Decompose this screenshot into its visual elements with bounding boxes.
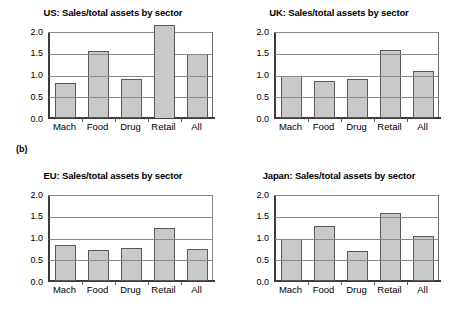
- x-tick-label: All: [180, 284, 213, 296]
- x-tick-label: Drug: [114, 284, 147, 296]
- panel-eu: EU: Sales/total assets by sector 0.00.51…: [0, 163, 226, 328]
- y-tick-label: 1.0: [238, 71, 269, 80]
- panel-us: US: Sales/total assets by sector 0.00.51…: [0, 0, 226, 165]
- x-tick-label: Retail: [147, 121, 180, 133]
- panel-uk: UK: Sales/total assets by sector 0.00.51…: [226, 0, 452, 165]
- x-tick-label: Food: [81, 121, 114, 133]
- x-tick-label: Mach: [48, 121, 81, 133]
- y-tick-label: 0.0: [12, 115, 43, 124]
- x-tick-label: Mach: [274, 121, 307, 133]
- x-tick-label: Retail: [373, 121, 406, 133]
- gridline: [275, 32, 438, 33]
- gridline: [275, 97, 438, 98]
- x-axis-labels-us: MachFoodDrugRetailAll: [48, 121, 213, 135]
- gridline: [275, 195, 438, 196]
- y-tick-label: 2.0: [12, 191, 43, 200]
- gridline: [49, 195, 212, 196]
- x-tick-label: Retail: [373, 284, 406, 296]
- y-tick-label: 0.5: [238, 93, 269, 102]
- x-tick-label: Drug: [340, 284, 373, 296]
- gridline: [275, 54, 438, 55]
- y-tick-label: 0.5: [12, 256, 43, 265]
- y-tick-label: 1.5: [12, 212, 43, 221]
- x-tick-label: Food: [81, 284, 114, 296]
- plot-area-eu: [48, 195, 213, 282]
- figure-grid: US: Sales/total assets by sector 0.00.51…: [0, 0, 452, 330]
- y-tick-label: 1.5: [238, 212, 269, 221]
- x-tick-label: All: [406, 121, 439, 133]
- x-tick-label: Mach: [48, 284, 81, 296]
- gridline: [49, 32, 212, 33]
- gridline: [49, 97, 212, 98]
- y-tick-label: 0.5: [12, 93, 43, 102]
- plot-area-japan: [274, 195, 439, 282]
- x-tick-label: Food: [307, 284, 340, 296]
- x-tick-label: All: [180, 121, 213, 133]
- y-tick-label: 1.0: [12, 234, 43, 243]
- x-axis-labels-uk: MachFoodDrugRetailAll: [274, 121, 439, 135]
- gridline: [275, 76, 438, 77]
- plot-area-us: [48, 32, 213, 119]
- gridline: [49, 54, 212, 55]
- bar: [154, 25, 176, 118]
- plot-area-uk: [274, 32, 439, 119]
- y-tick-label: 0.0: [12, 278, 43, 287]
- x-tick-label: Drug: [340, 121, 373, 133]
- gridline: [275, 239, 438, 240]
- x-tick-label: Food: [307, 121, 340, 133]
- y-tick-label: 1.0: [238, 234, 269, 243]
- x-tick-label: All: [406, 284, 439, 296]
- gridline: [49, 217, 212, 218]
- gridline: [275, 260, 438, 261]
- y-tick-label: 2.0: [238, 191, 269, 200]
- y-tick-label: 1.0: [12, 71, 43, 80]
- y-tick-label: 0.5: [238, 256, 269, 265]
- x-tick-label: Drug: [114, 121, 147, 133]
- y-tick-label: 0.0: [238, 115, 269, 124]
- x-axis-labels-eu: MachFoodDrugRetailAll: [48, 284, 213, 298]
- y-tick-label: 0.0: [238, 278, 269, 287]
- gridline: [275, 217, 438, 218]
- y-tick-label: 2.0: [238, 28, 269, 37]
- x-tick-label: Mach: [274, 284, 307, 296]
- y-tick-label: 1.5: [12, 49, 43, 58]
- panel-japan: Japan: Sales/total assets by sector 0.00…: [226, 163, 452, 328]
- y-tick-label: 1.5: [238, 49, 269, 58]
- gridline: [49, 260, 212, 261]
- x-axis-labels-japan: MachFoodDrugRetailAll: [274, 284, 439, 298]
- x-tick-label: Retail: [147, 284, 180, 296]
- gridline: [49, 76, 212, 77]
- gridline: [49, 239, 212, 240]
- y-tick-label: 2.0: [12, 28, 43, 37]
- panel-label-b: (b): [16, 144, 28, 154]
